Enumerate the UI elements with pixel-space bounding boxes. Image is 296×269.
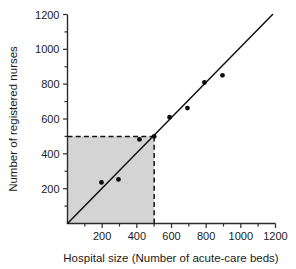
- y-tick-label: 1200: [35, 9, 59, 21]
- x-tick-label: 400: [128, 230, 146, 242]
- chart-page: 20040060080010001200 2004006008001000120…: [0, 0, 296, 269]
- data-point: [220, 73, 225, 78]
- y-axis-title: Number of registered nurses: [7, 46, 19, 192]
- scatter-plot: 20040060080010001200 2004006008001000120…: [0, 0, 296, 269]
- y-tick-label: 1000: [35, 43, 59, 55]
- x-tick-label: 200: [93, 230, 111, 242]
- y-tick-label: 600: [41, 113, 59, 125]
- x-axis-title: Hospital size (Number of acute-care beds…: [63, 252, 279, 264]
- data-point: [152, 134, 157, 139]
- x-tick-label: 600: [162, 230, 180, 242]
- y-tick-label: 200: [41, 183, 59, 195]
- x-tick-label: 1200: [263, 230, 287, 242]
- y-tick-labels-group: 20040060080010001200: [35, 9, 59, 195]
- x-tick-labels-group: 20040060080010001200: [93, 230, 288, 242]
- data-point: [202, 80, 207, 85]
- data-point: [137, 137, 142, 142]
- data-point: [116, 177, 121, 182]
- data-point: [99, 180, 104, 185]
- data-point: [185, 106, 190, 111]
- x-tick-label: 1000: [229, 230, 253, 242]
- data-point: [167, 115, 172, 120]
- x-tick-label: 800: [197, 230, 215, 242]
- y-tick-label: 800: [41, 78, 59, 90]
- y-tick-label: 400: [41, 148, 59, 160]
